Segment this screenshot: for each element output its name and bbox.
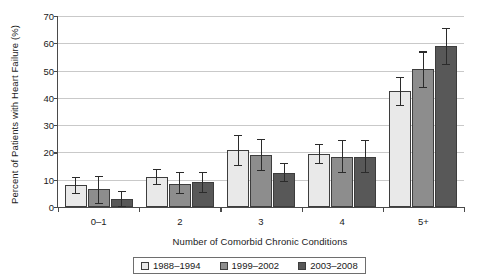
error-bar-cap-upper: [199, 172, 207, 173]
x-axis-title: Number of Comorbid Chronic Conditions: [55, 236, 465, 247]
error-bar-cap-lower: [396, 105, 404, 106]
error-bar: [365, 140, 366, 171]
bar-group: [65, 16, 133, 207]
error-bar-cap-upper: [72, 177, 80, 178]
x-tick-mark: [220, 207, 221, 212]
x-axis-tick-label: 3: [258, 216, 263, 227]
bar-group: [308, 16, 376, 207]
error-bar-cap-upper: [315, 144, 323, 145]
error-bar-cap-upper: [153, 169, 161, 170]
error-bar-cap-lower: [234, 165, 242, 166]
x-tick-mark: [302, 207, 303, 212]
y-axis-tick-label: 50: [43, 65, 54, 76]
x-axis-tick-label: 4: [340, 216, 345, 227]
error-bar: [202, 172, 203, 192]
error-bar-cap-upper: [234, 135, 242, 136]
error-bar: [342, 140, 343, 171]
error-bar-cap-upper: [419, 51, 427, 52]
y-axis-title: Percent of Patients with Heart Failure (…: [9, 15, 20, 215]
error-bar-cap-upper: [95, 176, 103, 177]
error-bar-cap-lower: [118, 206, 126, 207]
x-tick-mark: [383, 207, 384, 212]
legend-label: 2003–2008: [310, 260, 358, 271]
error-bar: [121, 191, 122, 206]
y-tick-mark: [54, 152, 58, 153]
error-bar-cap-upper: [361, 140, 369, 141]
error-bar: [179, 172, 180, 194]
error-bar-cap-lower: [315, 163, 323, 164]
bar-group: [227, 16, 295, 207]
y-axis-tick-label: 40: [43, 92, 54, 103]
y-tick-mark: [54, 71, 58, 72]
error-bar: [423, 51, 424, 86]
error-bar-cap-upper: [257, 139, 265, 140]
error-bar: [319, 144, 320, 163]
x-axis-tick-label: 2: [177, 216, 182, 227]
error-bar-cap-lower: [95, 203, 103, 204]
legend-item: 2003–2008: [298, 260, 358, 271]
error-bar-cap-lower: [176, 193, 184, 194]
error-bar-cap-lower: [72, 193, 80, 194]
y-axis-tick-label: 30: [43, 120, 54, 131]
y-tick-mark: [54, 16, 58, 17]
error-bar: [446, 28, 447, 63]
y-axis-tick-label: 10: [43, 174, 54, 185]
error-bar-cap-upper: [396, 77, 404, 78]
error-bar-cap-upper: [338, 140, 346, 141]
y-axis-tick-label: 20: [43, 147, 54, 158]
x-tick-mark: [139, 207, 140, 212]
error-bar-cap-lower: [257, 170, 265, 171]
error-bar: [98, 176, 99, 203]
error-bar-cap-upper: [442, 28, 450, 29]
y-tick-mark: [54, 125, 58, 126]
plot-area: 0102030405060700–12345+: [57, 16, 464, 208]
y-axis-tick-label: 70: [43, 11, 54, 22]
error-bar-cap-lower: [153, 184, 161, 185]
error-bar-cap-lower: [419, 87, 427, 88]
legend-item: 1999–2002: [220, 260, 280, 271]
x-tick-mark: [58, 207, 59, 212]
error-bar-cap-lower: [442, 64, 450, 65]
bar-chart: Percent of Patients with Heart Failure (…: [0, 0, 484, 280]
legend-swatch: [220, 262, 228, 270]
y-tick-mark: [54, 180, 58, 181]
error-bar-cap-lower: [280, 181, 288, 182]
legend-label: 1988–1994: [153, 260, 201, 271]
legend-item: 1988–1994: [141, 260, 201, 271]
legend-label: 1999–2002: [232, 260, 280, 271]
x-axis-tick-label: 0–1: [91, 216, 107, 227]
x-axis-tick-label: 5+: [418, 216, 429, 227]
error-bar-cap-lower: [361, 172, 369, 173]
gridline: [58, 207, 464, 208]
x-tick-mark: [464, 207, 465, 212]
error-bar-cap-lower: [338, 172, 346, 173]
error-bar: [284, 163, 285, 181]
error-bar: [75, 177, 76, 193]
legend-swatch: [141, 262, 149, 270]
bar: [412, 69, 434, 207]
bar: [389, 91, 411, 207]
bar: [435, 46, 457, 207]
bar-group: [389, 16, 457, 207]
y-axis-tick-label: 60: [43, 38, 54, 49]
error-bar: [238, 135, 239, 165]
error-bar-cap-upper: [176, 172, 184, 173]
error-bar: [400, 77, 401, 104]
y-axis-tick-label: 0: [49, 202, 54, 213]
legend-swatch: [298, 262, 306, 270]
error-bar: [261, 139, 262, 170]
error-bar-cap-upper: [118, 191, 126, 192]
y-tick-mark: [54, 43, 58, 44]
bar-group: [146, 16, 214, 207]
error-bar-cap-lower: [199, 192, 207, 193]
y-tick-mark: [54, 98, 58, 99]
error-bar: [156, 169, 157, 184]
error-bar-cap-upper: [280, 163, 288, 164]
chart-legend: 1988–19941999–20022003–2008: [133, 257, 366, 274]
